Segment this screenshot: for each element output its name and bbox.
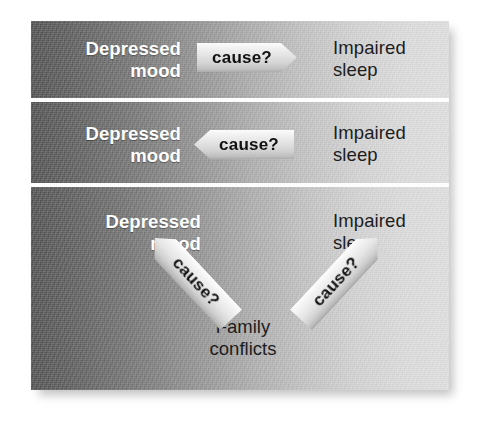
panel-2-left-label: Depressed mood	[49, 123, 181, 167]
causal-diagram-figure: Depressed mood Impaired sleep cause? Dep…	[0, 0, 478, 423]
panel-1-right-label: Impaired sleep	[333, 37, 445, 81]
panel-1-left-label: Depressed mood	[49, 38, 181, 82]
cause-arrow-left-label: cause?	[219, 135, 279, 155]
cause-arrow-left: cause?	[194, 130, 294, 159]
panel-2-right-label: Impaired sleep	[333, 122, 445, 166]
cause-arrow-right-body: cause?	[197, 43, 297, 72]
cause-arrow-left-body: cause?	[194, 130, 294, 159]
panel-stack: Depressed mood Impaired sleep cause? Dep…	[31, 21, 449, 390]
panel-3-center-label: Family conflicts	[179, 316, 307, 360]
cause-arrow-right-label: cause?	[212, 48, 272, 68]
cause-arrow-right: cause?	[197, 43, 297, 72]
